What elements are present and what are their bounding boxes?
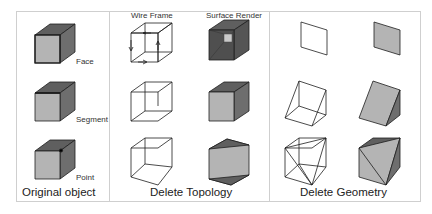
label-point: Point [76,173,94,182]
panel-title-delete-geometry: Delete Geometry [300,186,387,198]
column-header-surface-render: Surface Render [206,11,262,20]
cube-segment-highlight [35,82,75,121]
cube-face-highlight [35,24,75,63]
surface-render-open-cube [209,20,249,60]
panel-title-delete-topology: Delete Topology [150,186,232,198]
surface-wedge [359,81,400,126]
diagram-drawing [0,0,432,214]
label-face: Face [76,57,94,66]
wireframe-cube-missing-face [131,138,172,185]
column-header-wire-frame: Wire Frame [131,11,173,20]
cube-point-highlight [35,140,75,179]
wireframe-square [301,22,327,55]
wireframe-triangulated-cube [285,138,326,185]
surface-triangulated-cube [359,138,400,185]
wireframe-cube-missing-edge [131,82,172,121]
panel-title-original-object: Original object [22,186,96,198]
wireframe-cube-with-arrows [129,23,172,64]
surface-render-hexagon [209,139,249,185]
surface-render-cube [209,82,249,121]
surface-square [374,22,400,55]
label-segment: Segment [76,115,108,124]
wireframe-wedge [285,81,326,126]
